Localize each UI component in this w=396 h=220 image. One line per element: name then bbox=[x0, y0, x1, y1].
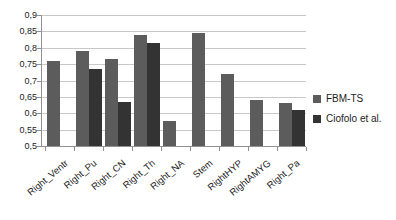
x-axis-tick bbox=[103, 147, 104, 151]
legend-item-fbm-ts: FBM-TS bbox=[313, 93, 382, 104]
bar-chart: 0,50,550,60,650,70,750,80,850,9Right_Ven… bbox=[0, 0, 396, 220]
x-axis-label-stem: Stem bbox=[192, 158, 215, 180]
bar-ciofolo-et-al-right-th bbox=[147, 43, 160, 146]
gridline bbox=[41, 31, 306, 32]
x-axis-tick bbox=[277, 147, 278, 151]
legend-label-ciofolo-et-al: Ciofolo et al. bbox=[326, 113, 382, 124]
bar-fbm-ts-right-cn bbox=[105, 59, 118, 146]
x-axis-tick bbox=[45, 147, 46, 151]
y-axis-tick-label: 0,5 bbox=[0, 141, 37, 151]
legend-label-fbm-ts: FBM-TS bbox=[326, 93, 363, 104]
x-axis-line bbox=[41, 146, 306, 147]
y-axis-tick-label: 0,55 bbox=[0, 125, 37, 135]
bar-ciofolo-et-al-right-cn bbox=[118, 102, 131, 146]
bar-fbm-ts-rightamyg bbox=[250, 100, 263, 146]
bar-ciofolo-et-al-right-pa bbox=[292, 110, 305, 146]
x-axis-label-right-ventr: Right_Ventr bbox=[25, 158, 69, 198]
bar-fbm-ts-right-pu bbox=[76, 51, 89, 146]
bar-fbm-ts-right-th bbox=[134, 35, 147, 146]
y-axis-tick-label: 0,8 bbox=[0, 43, 37, 53]
legend-item-ciofolo-et-al: Ciofolo et al. bbox=[313, 113, 382, 124]
bar-fbm-ts-stem bbox=[192, 33, 205, 146]
x-axis-tick bbox=[161, 147, 162, 151]
y-axis-tick-label: 0,7 bbox=[0, 76, 37, 86]
y-axis-tick-label: 0,6 bbox=[0, 108, 37, 118]
y-axis-tick-label: 0,9 bbox=[0, 10, 37, 20]
x-axis-tick bbox=[74, 147, 75, 151]
gridline bbox=[41, 15, 306, 16]
x-axis-tick bbox=[219, 147, 220, 151]
bar-fbm-ts-righthyp bbox=[221, 74, 234, 146]
bar-fbm-ts-right-ventr bbox=[47, 61, 60, 146]
x-axis-tick bbox=[306, 147, 307, 151]
legend-swatch-ciofolo-et-al bbox=[313, 115, 321, 123]
bar-ciofolo-et-al-right-pu bbox=[89, 69, 102, 146]
y-axis-tick-label: 0,85 bbox=[0, 26, 37, 36]
y-axis-line bbox=[41, 15, 42, 147]
legend: FBM-TS Ciofolo et al. bbox=[313, 93, 382, 124]
legend-swatch-fbm-ts bbox=[313, 95, 321, 103]
x-axis-tick bbox=[132, 147, 133, 151]
bar-fbm-ts-right-pa bbox=[279, 103, 292, 146]
bar-fbm-ts-right-na bbox=[163, 121, 176, 146]
y-axis-tick-label: 0,65 bbox=[0, 92, 37, 102]
gridline bbox=[41, 48, 306, 49]
x-axis-tick bbox=[248, 147, 249, 151]
y-axis-tick-label: 0,75 bbox=[0, 59, 37, 69]
x-axis-tick bbox=[190, 147, 191, 151]
